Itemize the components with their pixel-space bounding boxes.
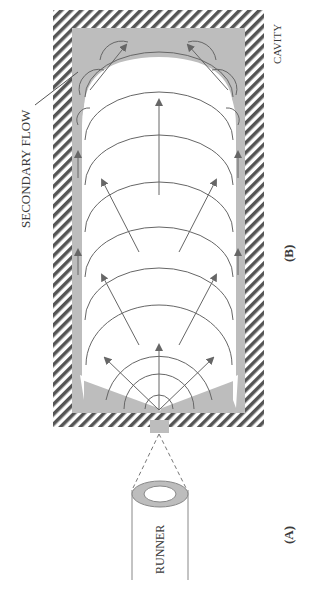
projection-lines (133, 434, 186, 488)
cavity-label: CAVITY (271, 24, 283, 64)
runner-label: RUNNER (153, 525, 168, 574)
panel-a-label: (A) (281, 526, 297, 544)
secondary-flow-label: SECONDARY FLOW (18, 110, 34, 228)
gate (150, 420, 169, 433)
injection-molding-flow-diagram (0, 0, 309, 591)
panel-b-label: (B) (281, 245, 297, 262)
